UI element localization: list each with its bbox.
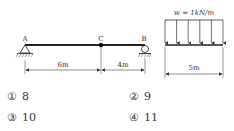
pin-support-icon: [16, 45, 33, 57]
option-value: 9: [144, 90, 151, 103]
option-1[interactable]: ①8: [7, 90, 29, 103]
load-label: w = 1kN/m: [174, 9, 214, 17]
option-marker: ①: [7, 90, 17, 103]
option-marker: ④: [129, 111, 139, 124]
option-marker: ②: [129, 90, 139, 103]
label-c: C: [98, 35, 103, 43]
option-value: 10: [22, 111, 36, 124]
roller-support-icon: [138, 46, 151, 58]
beam-diagram: A C B 6m 4m w = 1kN/m 5m: [0, 0, 234, 85]
option-value: 8: [22, 90, 29, 103]
option-2[interactable]: ②9: [129, 90, 151, 103]
distributed-load-icon: [165, 20, 223, 45]
load-span: 5m: [188, 64, 199, 72]
option-3[interactable]: ③10: [7, 111, 36, 124]
option-marker: ③: [7, 111, 17, 124]
label-a: A: [21, 35, 28, 43]
label-b: B: [141, 35, 146, 43]
hinge-c-icon: [99, 43, 103, 47]
dim-cb: 4m: [117, 61, 128, 69]
option-4[interactable]: ④11: [129, 111, 158, 124]
dim-ac: 6m: [57, 61, 68, 69]
option-value: 11: [144, 111, 158, 124]
